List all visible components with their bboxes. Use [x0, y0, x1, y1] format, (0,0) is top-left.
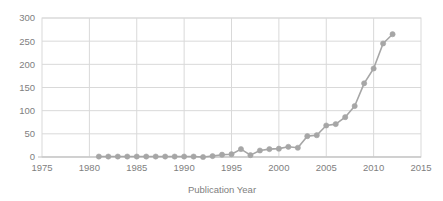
data-point-1981: [96, 154, 101, 159]
y-tick-label-100: 100: [19, 105, 35, 116]
data-point-2003: [305, 134, 310, 139]
x-tick-label-2000: 2000: [268, 162, 289, 173]
data-point-2000: [276, 146, 281, 151]
data-point-2008: [352, 103, 357, 108]
x-axis-title: Publication Year: [188, 184, 256, 195]
y-tick-label-300: 300: [19, 12, 35, 23]
data-point-1991: [191, 154, 196, 159]
data-point-1997: [248, 153, 253, 158]
x-tick-label-2005: 2005: [316, 162, 337, 173]
data-point-2010: [371, 66, 376, 71]
data-point-2012: [390, 32, 395, 37]
data-point-1994: [219, 152, 224, 157]
y-tick-label-50: 50: [24, 128, 35, 139]
data-point-1990: [182, 154, 187, 159]
x-tick-label-1980: 1980: [79, 162, 100, 173]
data-point-2009: [362, 81, 367, 86]
data-point-2006: [333, 122, 338, 127]
data-point-1986: [144, 154, 149, 159]
x-tick-label-1985: 1985: [126, 162, 147, 173]
data-point-1985: [134, 154, 139, 159]
x-tick-label-1995: 1995: [221, 162, 242, 173]
x-axis-tick-labels: 197519801985199019952000200520102015: [31, 162, 431, 173]
y-tick-label-0: 0: [30, 151, 35, 162]
data-point-1996: [238, 147, 243, 152]
x-tick-label-2015: 2015: [410, 162, 431, 173]
y-tick-label-150: 150: [19, 82, 35, 93]
data-point-2004: [314, 133, 319, 138]
data-point-1984: [125, 154, 130, 159]
y-tick-label-200: 200: [19, 59, 35, 70]
line-chart: 050100150200250300 197519801985199019952…: [0, 0, 443, 201]
data-point-1998: [257, 148, 262, 153]
x-tick-label-2010: 2010: [363, 162, 384, 173]
y-tick-label-250: 250: [19, 36, 35, 47]
data-point-1982: [106, 154, 111, 159]
data-point-1989: [172, 154, 177, 159]
x-tick-label-1975: 1975: [31, 162, 52, 173]
data-point-2002: [295, 145, 300, 150]
data-point-1995: [229, 152, 234, 157]
data-point-2005: [324, 123, 329, 128]
data-point-2011: [381, 41, 386, 46]
data-point-2001: [286, 144, 291, 149]
data-point-1983: [115, 154, 120, 159]
data-point-1999: [267, 147, 272, 152]
data-point-1987: [153, 154, 158, 159]
x-tick-label-1990: 1990: [174, 162, 195, 173]
chart-container: 050100150200250300 197519801985199019952…: [0, 0, 443, 201]
data-point-1992: [200, 154, 205, 159]
data-point-2007: [343, 115, 348, 120]
data-point-1993: [210, 153, 215, 158]
data-point-1988: [163, 154, 168, 159]
